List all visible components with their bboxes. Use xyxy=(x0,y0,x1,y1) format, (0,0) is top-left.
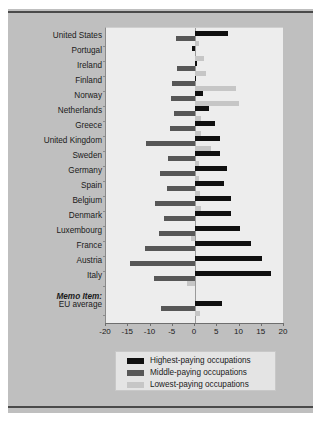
bar-middle-greece xyxy=(170,126,195,131)
x-tick xyxy=(261,323,262,326)
row-tick xyxy=(103,76,106,77)
x-tick-label: 15 xyxy=(250,327,272,337)
bar-middle-sweden xyxy=(168,156,195,161)
bar-highest-italy xyxy=(195,271,271,276)
bar-highest-belgium xyxy=(195,196,231,201)
bar-highest-united-states xyxy=(195,31,228,36)
row-tick xyxy=(103,121,106,122)
bar-highest-portugal xyxy=(192,46,195,51)
bar-middle-netherlands xyxy=(174,111,195,116)
bar-middle-eu-average xyxy=(161,306,195,311)
bar-middle-spain xyxy=(167,186,195,191)
legend-swatch-icon xyxy=(127,382,144,388)
bar-highest-netherlands xyxy=(195,106,209,111)
bar-lowest-eu-average xyxy=(195,311,200,316)
bar-lowest-luxembourg xyxy=(191,236,195,241)
legend-item: Middle-paying occupations xyxy=(127,367,275,378)
legend-label: Highest-paying occupations xyxy=(150,356,251,365)
bar-highest-norway xyxy=(195,91,203,96)
row-tick xyxy=(103,166,106,167)
row-tick xyxy=(103,181,106,182)
category-label-austria: Austria xyxy=(10,256,102,265)
row-tick xyxy=(103,271,106,272)
bar-lowest-finland xyxy=(195,86,236,91)
bar-lowest-italy xyxy=(187,281,195,286)
category-label-spain: Spain xyxy=(10,181,102,190)
bar-highest-eu-average xyxy=(195,301,222,306)
category-label-united-kingdom: United Kingdom xyxy=(10,136,102,145)
category-label-ireland: Ireland xyxy=(10,61,102,70)
category-label-norway: Norway xyxy=(10,91,102,100)
x-tick xyxy=(150,323,151,326)
plot-inner xyxy=(106,28,283,323)
bar-middle-austria xyxy=(130,261,195,266)
bar-highest-austria xyxy=(195,256,262,261)
bottom-rule xyxy=(8,406,313,408)
bar-middle-norway xyxy=(171,96,195,101)
x-tick xyxy=(194,323,195,326)
x-tick-label: 20 xyxy=(272,327,294,337)
bar-highest-sweden xyxy=(195,151,220,156)
x-tick-label: -5 xyxy=(161,327,183,337)
bar-lowest-belgium xyxy=(195,206,201,211)
row-tick xyxy=(103,46,106,47)
bar-lowest-greece xyxy=(195,131,201,136)
category-label-luxembourg: Luxembourg xyxy=(10,226,102,235)
bar-middle-united-kingdom xyxy=(146,141,195,146)
x-tick-label: -15 xyxy=(116,327,138,337)
category-label-sweden: Sweden xyxy=(10,151,102,160)
figure-root: United StatesPortugalIrelandFinlandNorwa… xyxy=(0,0,321,422)
bar-lowest-united-states xyxy=(195,41,199,46)
bar-middle-france xyxy=(145,246,195,251)
row-tick xyxy=(103,256,106,257)
category-label-belgium: Belgium xyxy=(10,196,102,205)
category-label-portugal: Portugal xyxy=(10,46,102,55)
bar-lowest-sweden xyxy=(195,161,199,166)
category-label-germany: Germany xyxy=(10,166,102,175)
row-tick xyxy=(103,136,106,137)
category-label-finland: Finland xyxy=(10,76,102,85)
x-tick xyxy=(283,323,284,326)
x-tick-label: 0 xyxy=(183,327,205,337)
bar-lowest-germany xyxy=(195,176,199,181)
bar-middle-belgium xyxy=(155,201,195,206)
row-tick xyxy=(103,241,106,242)
x-tick xyxy=(239,323,240,326)
bar-highest-france xyxy=(195,241,251,246)
category-label-eu-average: EU average xyxy=(10,300,102,309)
legend-swatch-icon xyxy=(127,358,144,364)
row-tick xyxy=(103,315,106,316)
bar-middle-finland xyxy=(172,81,195,86)
bar-highest-spain xyxy=(195,181,224,186)
row-tick xyxy=(103,211,106,212)
x-tick xyxy=(105,323,106,326)
bar-lowest-norway xyxy=(195,101,239,106)
category-label-france: France xyxy=(10,241,102,250)
bar-middle-germany xyxy=(160,171,195,176)
category-label-greece: Greece xyxy=(10,121,102,130)
x-tick-label: 5 xyxy=(205,327,227,337)
legend-swatch-icon xyxy=(127,370,144,376)
legend-label: Middle-paying occupations xyxy=(150,368,247,377)
bar-lowest-united-kingdom xyxy=(195,146,211,151)
bar-highest-finland xyxy=(195,76,196,81)
row-tick xyxy=(103,226,106,227)
category-label-denmark: Denmark xyxy=(10,211,102,220)
x-tick xyxy=(172,323,173,326)
x-axis: -20-15-10-505101520 xyxy=(105,323,284,341)
category-labels: United StatesPortugalIrelandFinlandNorwa… xyxy=(10,24,102,319)
legend-item: Lowest-paying occupations xyxy=(127,379,275,390)
bar-highest-greece xyxy=(195,121,215,126)
bar-highest-united-kingdom xyxy=(195,136,220,141)
top-rule xyxy=(8,11,313,13)
x-tick-label: 10 xyxy=(228,327,250,337)
row-tick xyxy=(103,196,106,197)
bar-highest-ireland xyxy=(195,61,197,66)
bar-middle-united-states xyxy=(176,36,195,41)
legend-item: Highest-paying occupations xyxy=(127,355,275,366)
x-tick xyxy=(127,323,128,326)
bar-highest-luxembourg xyxy=(195,226,240,231)
row-tick xyxy=(103,61,106,62)
plot-area xyxy=(105,27,283,323)
bar-highest-denmark xyxy=(195,211,231,216)
